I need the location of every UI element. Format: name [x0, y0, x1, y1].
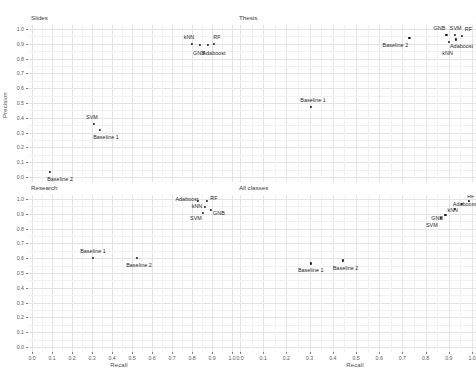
data-point-label: SVM — [450, 25, 462, 31]
gridline-horizontal — [236, 103, 476, 104]
data-point-label: Baseline 2 — [383, 42, 409, 48]
data-point-label: kNN — [192, 203, 203, 209]
data-point — [408, 37, 410, 39]
gridline-horizontal — [28, 229, 236, 230]
gridline-vertical — [426, 195, 427, 352]
gridline-horizontal — [236, 81, 476, 82]
data-point-label: Baseline 1 — [80, 248, 106, 254]
y-tick-label: 0.6 — [11, 255, 24, 261]
gridline-vertical — [391, 25, 392, 182]
gridline-horizontal — [236, 51, 476, 52]
x-tick-label: 0.8 — [188, 355, 195, 361]
x-tick-label: 0.6 — [148, 355, 155, 361]
y-tick-label: 0.7 — [11, 70, 24, 76]
y-tick-label: 0.3 — [11, 300, 24, 306]
data-point-label: GNB — [213, 210, 225, 216]
y-tick-mark — [26, 199, 28, 200]
data-point-label: Adaboost — [453, 201, 476, 207]
gridline-horizontal — [28, 273, 236, 274]
data-point-label: kNN — [184, 34, 195, 40]
gridline-vertical — [391, 195, 392, 352]
data-point-label: RF — [210, 195, 217, 201]
x-tick-label: 0.9 — [445, 355, 452, 361]
y-tick-mark — [26, 214, 28, 215]
data-point — [204, 206, 206, 208]
y-tick-label: 0.4 — [11, 285, 24, 291]
x-tick-label: 1.0 — [468, 355, 475, 361]
facet-strip: Research — [28, 182, 236, 195]
data-point-label: RF — [213, 34, 220, 40]
x-tick-mark — [402, 352, 403, 354]
gridline-horizontal — [28, 73, 236, 74]
gridline-vertical — [142, 195, 143, 352]
data-point — [310, 262, 312, 264]
gridline-horizontal — [28, 96, 236, 97]
facet-strip: All classes — [236, 182, 476, 195]
x-tick-label: 0.4 — [329, 355, 336, 361]
gridline-horizontal — [236, 96, 476, 97]
plot-area: kNNGNBAdaboostRFSVMBaseline 1Baseline 2 — [28, 25, 236, 182]
gridline-vertical — [368, 195, 369, 352]
y-tick-mark — [26, 317, 28, 318]
gridline-horizontal — [28, 59, 236, 60]
x-tick-mark — [212, 352, 213, 354]
x-tick-mark — [172, 352, 173, 354]
gridline-horizontal — [236, 258, 476, 259]
facet-strip: Thesis — [236, 12, 476, 25]
x-tick-mark — [426, 352, 427, 354]
data-point-label: SVM — [190, 215, 202, 221]
gridline-vertical — [232, 195, 233, 352]
y-tick-mark — [26, 332, 28, 333]
data-point-label: Adaboost — [175, 196, 198, 202]
facet-strip: Slides — [28, 12, 236, 25]
x-tick-label: 0.4 — [108, 355, 115, 361]
gridline-vertical — [212, 195, 213, 352]
gridline-vertical — [162, 25, 163, 182]
gridline-horizontal — [236, 206, 476, 207]
facet-strip-label: Thesis — [239, 14, 257, 21]
gridline-horizontal — [28, 88, 236, 89]
y-tick-mark — [26, 118, 28, 119]
y-tick-mark — [26, 229, 28, 230]
x-tick-label: 0.9 — [208, 355, 215, 361]
facet-strip-label: All classes — [239, 184, 268, 191]
gridline-vertical — [152, 25, 153, 182]
x-tick-label: 1.0 — [228, 355, 235, 361]
data-point-label: SVM — [426, 222, 438, 228]
gridline-vertical — [142, 25, 143, 182]
y-tick-label: 0.6 — [11, 85, 24, 91]
x-tick-mark — [132, 352, 133, 354]
y-tick-label: 0.9 — [11, 211, 24, 217]
x-tick-mark — [192, 352, 193, 354]
gridline-vertical — [202, 195, 203, 352]
x-tick-label: 0.1 — [48, 355, 55, 361]
gridline-horizontal — [236, 221, 476, 222]
gridline-vertical — [437, 25, 438, 182]
plot-area: Baseline 2GNBSVMRFAdaboostkNNBaseline 1 — [236, 25, 476, 182]
y-axis-title: Precision — [2, 92, 8, 118]
gridline-horizontal — [28, 199, 236, 200]
gridline-vertical — [172, 25, 173, 182]
data-point-label: Baseline 2 — [333, 265, 359, 271]
gridline-horizontal — [28, 251, 236, 252]
gridline-vertical — [379, 195, 380, 352]
gridline-vertical — [172, 195, 173, 352]
y-tick-mark — [26, 103, 28, 104]
y-tick-mark — [26, 162, 28, 163]
data-point-label: kNN — [442, 50, 453, 56]
gridline-horizontal — [28, 44, 236, 45]
y-tick-mark — [26, 133, 28, 134]
gridline-vertical — [414, 25, 415, 182]
y-tick-mark — [26, 147, 28, 148]
y-tick-label: 0.8 — [11, 56, 24, 62]
gridline-vertical — [368, 25, 369, 182]
gridline-vertical — [472, 195, 473, 352]
gridline-horizontal — [28, 236, 236, 237]
y-tick-mark — [26, 347, 28, 348]
gridline-horizontal — [28, 66, 236, 67]
data-point — [199, 44, 201, 46]
x-tick-mark — [333, 352, 334, 354]
gridline-horizontal — [236, 88, 476, 89]
y-tick-mark — [26, 303, 28, 304]
x-tick-mark — [379, 352, 380, 354]
